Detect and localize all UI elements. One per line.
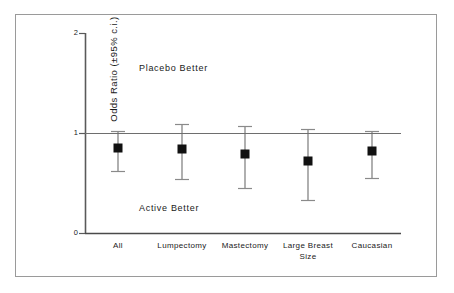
data-point-marker — [304, 157, 313, 166]
data-point-marker — [368, 147, 377, 156]
error-bar-mastectomy — [238, 126, 252, 189]
y-tick-label-2: 2 — [62, 29, 78, 37]
annotation-active-better: Active Better — [139, 203, 199, 214]
error-bar-lumpectomy — [175, 124, 189, 180]
data-point-marker — [178, 145, 187, 154]
x-tick-label-caucasian: Caucasian — [344, 240, 400, 251]
x-tick-label-large-breast-size: Large Breast Size — [277, 240, 339, 262]
x-tick-label-all: All — [93, 240, 143, 251]
plot-area: Odds Ratio (±95% c.i.) 2 1 0 Placebo Bet… — [0, 0, 454, 293]
y-axis-title: Odds Ratio (±95% c.i.) — [107, 0, 121, 149]
error-bar-caucasian — [365, 131, 379, 179]
figure-container: Odds Ratio (±95% c.i.) 2 1 0 Placebo Bet… — [0, 0, 454, 293]
error-bar-large-breast-size — [301, 129, 315, 201]
data-point-marker — [241, 150, 250, 159]
y-tick-label-0: 0 — [62, 229, 78, 237]
annotation-placebo-better: Placebo Better — [139, 63, 208, 74]
x-tick-label-mastectomy: Mastectomy — [215, 240, 275, 251]
x-tick-label-lumpectomy: Lumpectomy — [152, 240, 212, 251]
y-tick-label-1: 1 — [62, 129, 78, 137]
